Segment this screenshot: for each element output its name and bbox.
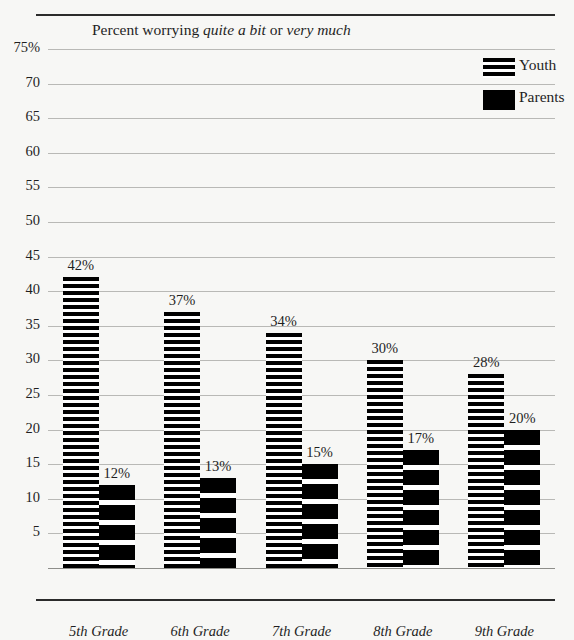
x-axis-tick-label: 9th Grade: [444, 623, 564, 640]
y-axis-tick-label: 75%: [13, 39, 40, 56]
plot-area: 42%12%5th Grade37%13%6th Grade34%15%7th …: [48, 49, 555, 568]
bar-group: 30%17%: [367, 49, 439, 568]
y-axis-tick-label: 15: [26, 454, 41, 471]
bar-parents[interactable]: [200, 478, 236, 568]
y-axis-tick-label: 35: [26, 316, 41, 333]
axis-baseline: [48, 568, 555, 569]
y-axis-tick-label: 65: [26, 108, 41, 125]
y-axis-tick-label: 50: [26, 212, 41, 229]
bar-value-label: 20%: [492, 410, 552, 427]
bar-value-label: 34%: [254, 313, 314, 330]
chart-title-emphasis-2: very much: [287, 21, 351, 38]
bar-value-label: 37%: [152, 292, 212, 309]
bar-youth[interactable]: [367, 360, 403, 568]
y-axis-tick-label: 55: [26, 177, 41, 194]
bar-group: 37%13%: [164, 49, 236, 568]
top-rule: [36, 14, 555, 16]
bar-value-label: 42%: [51, 257, 111, 274]
bar-value-label: 30%: [355, 340, 415, 357]
chart-title-middle: or: [266, 21, 287, 38]
bar-value-label: 13%: [188, 458, 248, 475]
y-axis-tick-label: 30: [26, 350, 41, 367]
y-axis-tick-label: 40: [26, 281, 41, 298]
chart-title-prefix: Percent worrying: [92, 21, 203, 38]
bar-group: 34%15%: [266, 49, 338, 568]
y-axis-tick-label: 60: [26, 143, 41, 160]
y-axis-tick-label: 5: [33, 523, 40, 540]
bar-youth[interactable]: [468, 374, 504, 568]
bar-group: 28%20%: [468, 49, 540, 568]
bar-value-label: 17%: [391, 430, 451, 447]
bar-parents[interactable]: [403, 450, 439, 568]
y-axis-tick-label: 45: [26, 247, 41, 264]
y-axis-tick-label: 20: [26, 420, 41, 437]
bar-value-label: 28%: [456, 354, 516, 371]
bar-group: 42%12%: [63, 49, 135, 568]
y-axis: 75%706560555045403530252015105: [0, 0, 44, 613]
y-axis-tick-label: 70: [26, 74, 41, 91]
bottom-rule: [36, 599, 555, 601]
y-axis-tick-label: 10: [26, 489, 41, 506]
bar-value-label: 15%: [290, 444, 350, 461]
bar-parents[interactable]: [504, 430, 540, 568]
bar-youth[interactable]: [164, 312, 200, 568]
bar-youth[interactable]: [63, 277, 99, 568]
bar-parents[interactable]: [99, 485, 135, 568]
chart-title-emphasis-1: quite a bit: [203, 21, 266, 38]
bar-value-label: 12%: [87, 465, 147, 482]
chart-title: Percent worrying quite a bit or very muc…: [92, 21, 351, 39]
y-axis-tick-label: 25: [26, 385, 41, 402]
bar-parents[interactable]: [302, 464, 338, 568]
